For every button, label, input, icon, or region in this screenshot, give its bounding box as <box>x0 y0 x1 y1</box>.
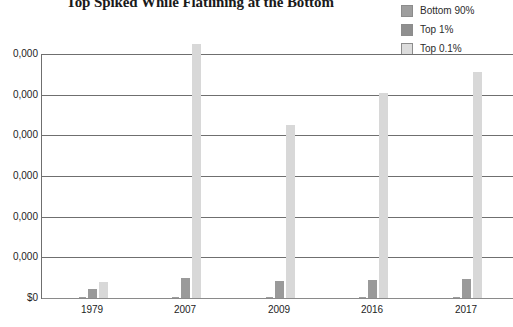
bar-top-0-1-2016[interactable] <box>379 93 388 298</box>
bar-bottom-90-2017[interactable] <box>453 297 460 298</box>
bar-top-1-2016[interactable] <box>368 280 377 298</box>
gridline <box>42 54 513 55</box>
y-axis-tick-label: $0 <box>0 292 38 304</box>
x-axis-line <box>42 298 513 299</box>
plot-area: $00,0000,0000,0000,0000,0000,00019792007… <box>42 54 513 298</box>
chart-title: Top Spiked While Flatlining at the Botto… <box>0 0 400 11</box>
gridline <box>42 257 513 258</box>
gridline <box>42 176 513 177</box>
legend-item-label: Top 0.1% <box>420 43 462 54</box>
x-axis-tick-label: 2007 <box>155 304 215 315</box>
legend-item-label: Top 1% <box>420 24 453 35</box>
gridline <box>42 217 513 218</box>
bar-top-1-2017[interactable] <box>462 279 471 298</box>
bar-bottom-90-2007[interactable] <box>172 297 179 298</box>
legend-item-top-1[interactable]: Top 1% <box>401 20 513 39</box>
bar-top-1-1979[interactable] <box>88 289 97 298</box>
bar-top-0-1-2009[interactable] <box>286 125 295 298</box>
bar-top-0-1-2007[interactable] <box>192 44 201 298</box>
x-axis-tick-label: 1979 <box>62 304 122 315</box>
y-axis-tick-label: 0,000 <box>0 89 38 101</box>
bar-bottom-90-2016[interactable] <box>359 297 366 298</box>
bar-top-1-2007[interactable] <box>181 278 190 298</box>
x-axis-tick-label: 2017 <box>436 304 496 315</box>
legend-swatch-icon <box>401 43 413 55</box>
chart-legend: Bottom 90% Top 1% Top 0.1% <box>401 1 513 58</box>
gridline <box>42 95 513 96</box>
legend-swatch-icon <box>401 24 413 36</box>
y-axis-tick-label: 0,000 <box>0 129 38 141</box>
y-axis-tick-label: 0,000 <box>0 251 38 263</box>
bar-top-1-2009[interactable] <box>275 281 284 298</box>
gridline <box>42 135 513 136</box>
bar-top-0-1-2017[interactable] <box>473 72 482 298</box>
bar-top-0-1-1979[interactable] <box>99 282 108 298</box>
y-axis-tick-label: 0,000 <box>0 211 38 223</box>
bar-bottom-90-2009[interactable] <box>266 297 273 298</box>
y-axis-tick-label: 0,000 <box>0 170 38 182</box>
x-axis-tick-label: 2009 <box>249 304 309 315</box>
x-axis-tick-label: 2016 <box>342 304 402 315</box>
chart-container: Top Spiked While Flatlining at the Botto… <box>0 0 513 327</box>
legend-item-bottom-90[interactable]: Bottom 90% <box>401 1 513 20</box>
y-axis-tick-label: 0,000 <box>0 48 38 60</box>
bar-bottom-90-1979[interactable] <box>79 297 86 298</box>
legend-swatch-icon <box>401 5 413 17</box>
legend-item-label: Bottom 90% <box>420 5 474 16</box>
